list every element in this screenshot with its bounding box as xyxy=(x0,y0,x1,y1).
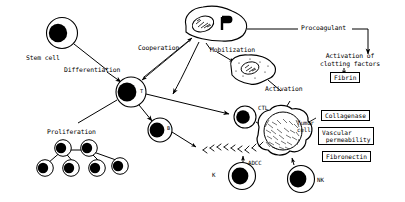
label-t-cell: T xyxy=(140,88,143,95)
label-mobilization: Mobilization xyxy=(210,46,255,54)
label-nk-cell: NK xyxy=(317,177,324,184)
label-differentiation: Differentiation xyxy=(64,66,120,74)
arrow-t-to-b xyxy=(139,105,152,121)
arrow-nk-to-tumor xyxy=(292,158,294,165)
arrow-procoagulant-to-clotting xyxy=(352,29,368,54)
stem-cell-glyph xyxy=(47,18,78,49)
macrophage-glyph xyxy=(185,6,246,41)
ctl-glyph xyxy=(234,106,256,128)
box-fibrin: Fibrin xyxy=(330,72,360,83)
arrow-t-to-ctl xyxy=(146,94,229,114)
label-ctl: CTL xyxy=(258,105,268,112)
label-k-cell: K xyxy=(212,172,215,179)
label-b-cell: B xyxy=(167,125,170,132)
nk-cell-glyph xyxy=(288,166,315,193)
label-adcc: ADCC xyxy=(248,160,262,167)
box-vascular-permeability: Vascular permeability xyxy=(318,127,374,145)
label-tumor-cell: Tumor cell xyxy=(297,120,314,134)
box-collagenase: Collagenase xyxy=(321,110,370,121)
label-stem-cell: Stem cell xyxy=(26,54,60,62)
proliferation-cluster xyxy=(37,140,129,177)
box-fibronectin: Fibronectin xyxy=(322,151,371,162)
diagram-canvas: Stem cell Differentiation Proliferation … xyxy=(0,0,405,202)
label-proliferation: Proliferation xyxy=(47,128,96,136)
label-activation-of-clotting-factors: Activation of clotting factors xyxy=(320,52,380,68)
antibody-chain xyxy=(203,142,263,153)
label-procoagulant: Procoagulant xyxy=(301,24,346,32)
arrow-b-to-antibody xyxy=(172,132,196,147)
label-activation: Activation xyxy=(265,85,302,93)
arrow-t-to-proliferation xyxy=(78,100,117,123)
label-cooperation: Cooperation xyxy=(138,44,179,52)
